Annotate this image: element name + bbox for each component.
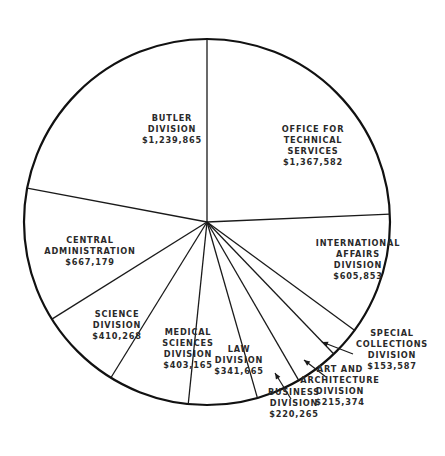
pie-chart: OFFICE FORTECHNICALSERVICES$1,367,582INT… <box>0 0 445 456</box>
slice-label: SCIENCEDIVISION$410,268 <box>92 309 141 341</box>
slice-label: SPECIALCOLLECTIONSDIVISION$153,587 <box>356 328 428 371</box>
slice-label: MEDICALSCIENCESDIVISION$403,165 <box>162 327 213 370</box>
slice-label: BUSINESSDIVISION$220,265 <box>268 387 320 419</box>
slice-label: OFFICE FORTECHNICALSERVICES$1,367,582 <box>282 124 345 167</box>
